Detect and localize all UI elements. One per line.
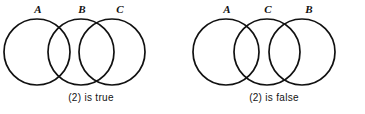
set-label-b-right: B (302, 4, 316, 15)
circle-b-right (269, 19, 335, 85)
circle-b-left (48, 19, 114, 85)
set-label-b-left: B (75, 4, 89, 15)
circle-c-left (79, 19, 145, 85)
set-label-c-left: C (113, 4, 127, 15)
set-label-a-left: A (31, 4, 45, 15)
circle-a-right (193, 19, 259, 85)
diagram-left: A B C (2) is true (0, 0, 182, 114)
diagram-right: A C B (2) is false (183, 0, 365, 114)
circle-c-right (234, 19, 300, 85)
set-label-c-right: C (261, 4, 275, 15)
set-label-a-right: A (220, 4, 234, 15)
caption-left: (2) is true (0, 92, 182, 104)
euler-diagram-figure: A B C (2) is true A C B (2) is false (0, 0, 365, 114)
caption-right: (2) is false (183, 92, 365, 104)
venn-circles-left (0, 0, 182, 92)
circle-a-left (4, 19, 70, 85)
